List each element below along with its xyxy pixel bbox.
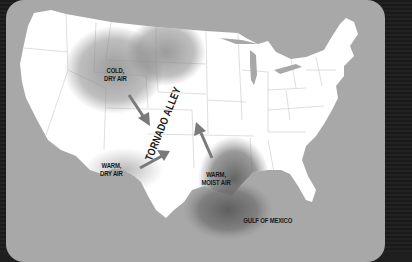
warm-dry-air-label-line2: DRY AIR [100, 170, 123, 178]
cold-dry-air-label-line1: COLD, [104, 67, 127, 75]
gulf-of-mexico-label: GULF OF MEXICO [243, 217, 292, 225]
gulf-moisture-shade [183, 180, 273, 240]
warm-moist-air-label: WARM, MOIST AIR [202, 171, 231, 187]
cold-dry-air-mass-north [126, 18, 206, 86]
cold-dry-air-label: COLD, DRY AIR [104, 67, 127, 83]
map-panel: COLD, DRY AIR TORNADO ALLEY WARM, DRY AI… [6, 0, 385, 262]
cold-dry-air-label-line2: DRY AIR [104, 75, 127, 83]
us-map [6, 0, 385, 262]
warm-moist-air-label-line1: WARM, [202, 171, 231, 179]
warm-dry-air-label: WARM, DRY AIR [100, 162, 123, 178]
warm-moist-air-label-line2: MOIST AIR [202, 179, 231, 187]
warm-dry-air-label-line1: WARM, [100, 162, 123, 170]
